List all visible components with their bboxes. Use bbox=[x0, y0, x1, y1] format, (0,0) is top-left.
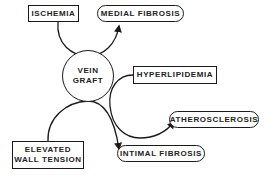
edge-hyperlipidemia-to-atherosclerosis bbox=[110, 75, 174, 138]
atherosclerosis-box: ATHEROSCLEROSIS bbox=[169, 111, 259, 128]
medial-fibrosis-box: MEDIAL FIBROSIS bbox=[97, 5, 184, 22]
elevated-wall-tension-box: ELEVATED WALL TENSION bbox=[12, 141, 84, 169]
vein-graft-node: VEIN GRAFT bbox=[62, 50, 114, 102]
ischemia-label: ISCHEMIA bbox=[32, 9, 76, 19]
medial-fibrosis-label: MEDIAL FIBROSIS bbox=[101, 9, 181, 19]
vein-graft-label-line2: GRAFT bbox=[73, 76, 104, 86]
atherosclerosis-label: ATHEROSCLEROSIS bbox=[170, 115, 258, 125]
ischemia-box: ISCHEMIA bbox=[28, 5, 79, 22]
hyperlipidemia-label: HYPERLIPIDEMIA bbox=[137, 70, 213, 80]
vein-graft-label-line1: VEIN bbox=[77, 66, 98, 76]
intimal-fibrosis-box: INTIMAL FIBROSIS bbox=[117, 145, 205, 162]
intimal-fibrosis-label: INTIMAL FIBROSIS bbox=[120, 149, 202, 159]
hyperlipidemia-box: HYPERLIPIDEMIA bbox=[133, 66, 217, 84]
elevated-wall-tension-label-line1: ELEVATED bbox=[25, 145, 71, 155]
elevated-wall-tension-label-line2: WALL TENSION bbox=[14, 155, 82, 165]
